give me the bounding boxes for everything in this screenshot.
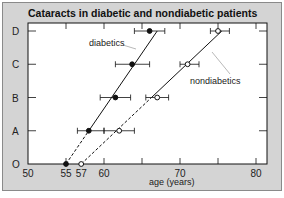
x-tick-label-57: 57	[76, 168, 88, 179]
nondiabetics-point-D	[216, 29, 221, 34]
x-tick-label-50: 50	[22, 168, 34, 179]
y-tick-label-C: C	[12, 59, 19, 70]
diabetics-point-D	[147, 29, 152, 34]
nondiabetics-annotation: nondiabetics	[190, 76, 241, 86]
chart-title: Cataracts in diabetic and nondiabetic pa…	[28, 7, 257, 19]
x-tick-label-80: 80	[250, 168, 262, 179]
y-tick-label-O: O	[12, 159, 20, 170]
nondiabetics-point-B	[155, 95, 160, 100]
x-tick-label-60: 60	[98, 168, 110, 179]
chart: Cataracts in diabetic and nondiabetic pa…	[0, 0, 284, 198]
nondiabetics-point-O	[79, 162, 84, 167]
nondiabetics-point-A	[117, 128, 122, 133]
diabetics-point-A	[86, 128, 91, 133]
x-tick-label-55: 55	[60, 168, 72, 179]
diabetics-point-C	[130, 62, 135, 67]
plot-area	[28, 23, 267, 164]
diabetics-point-O	[64, 162, 69, 167]
y-tick-label-A: A	[12, 126, 19, 137]
y-tick-label-D: D	[12, 26, 19, 37]
y-tick-label-B: B	[12, 93, 19, 104]
x-axis-label: age (years)	[149, 177, 195, 187]
diabetics-annotation: diabetics	[89, 38, 125, 48]
diabetics-point-B	[113, 95, 118, 100]
nondiabetics-point-C	[185, 62, 190, 67]
